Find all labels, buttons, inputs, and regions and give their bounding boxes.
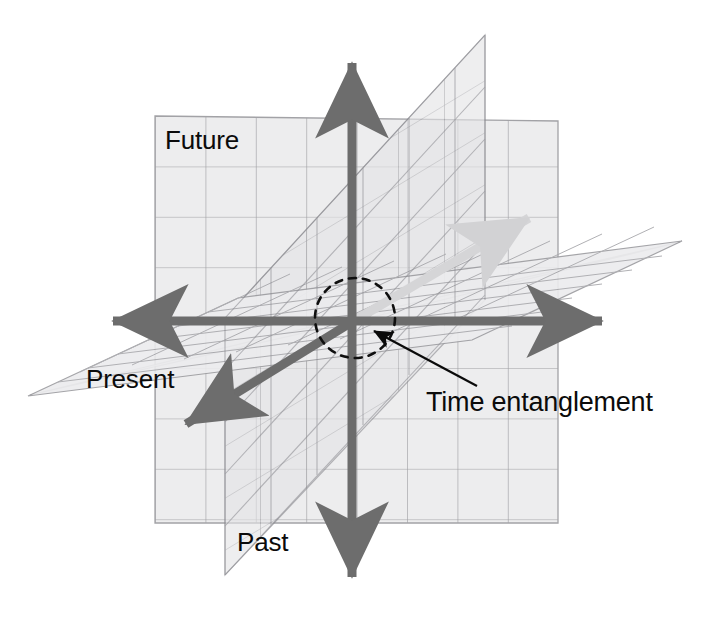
label-past: Past	[237, 527, 288, 558]
time-entanglement-figure	[0, 0, 712, 634]
label-future: Future	[165, 125, 239, 156]
label-present: Present	[86, 364, 174, 395]
label-time-entanglement: Time entanglement	[426, 387, 653, 418]
diagram-canvas: Future Present Past Time entanglement	[0, 0, 712, 634]
